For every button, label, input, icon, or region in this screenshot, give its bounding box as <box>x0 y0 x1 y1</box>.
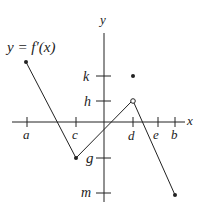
isolated-point-d-k <box>131 74 135 78</box>
tick-label-m: m <box>81 185 91 200</box>
derivative-curve <box>26 62 131 158</box>
open-point-d-h <box>131 99 136 104</box>
x-axis-label: x <box>186 113 193 128</box>
tick-label-b: b <box>171 127 178 142</box>
end-point <box>173 193 177 197</box>
tick-label-h: h <box>84 94 91 109</box>
tick-label-d: d <box>128 128 135 143</box>
tick-label-k: k <box>83 69 90 84</box>
tick-label-g: g <box>86 150 94 166</box>
function-label: y = f′(x) <box>5 39 55 56</box>
graph-figure: y = f′(x) y x a c d e b k h g m <box>0 0 206 212</box>
tick-label-a: a <box>23 127 30 142</box>
tick-label-c: c <box>72 127 78 142</box>
derivative-curve-right <box>134 103 175 195</box>
graph-canvas: y = f′(x) y x a c d e b k h g m <box>0 0 206 212</box>
min-point <box>74 156 78 160</box>
tick-label-e: e <box>153 127 159 142</box>
start-point <box>24 60 28 64</box>
y-axis-label: y <box>98 12 106 27</box>
